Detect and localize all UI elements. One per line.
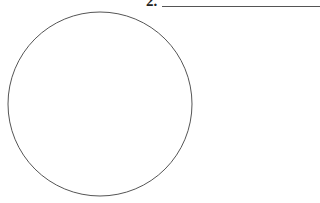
question-number-label: 2.	[146, 0, 157, 9]
answer-blank-line[interactable]	[162, 6, 320, 7]
worksheet-figure: 2.	[0, 0, 320, 203]
circle-shape	[8, 12, 192, 196]
circle-diagram	[0, 0, 320, 203]
